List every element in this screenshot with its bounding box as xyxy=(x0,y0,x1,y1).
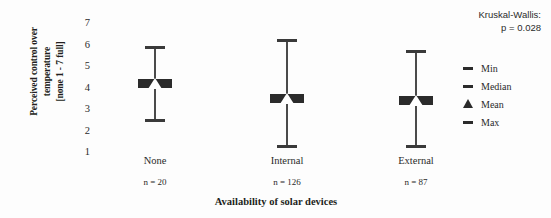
dash-marker-icon xyxy=(462,61,478,75)
max-marker xyxy=(406,50,426,53)
max-marker xyxy=(277,39,297,42)
legend-item-mean: Mean xyxy=(462,95,546,113)
legend-item-max: Max xyxy=(462,113,546,131)
category-label: External xyxy=(371,155,461,166)
y-tick-label: 5 xyxy=(76,61,90,71)
legend-label: Max xyxy=(478,117,499,128)
y-tick-label: 7 xyxy=(76,18,90,28)
y-axis-title-line-2: temperature xyxy=(41,2,54,142)
mean-marker xyxy=(148,78,162,89)
legend-item-median: Median xyxy=(462,77,546,95)
y-tick-label: 2 xyxy=(76,126,90,136)
statistical-test-annotation: Kruskal-Wallis: p = 0.028 xyxy=(391,8,541,34)
y-axis-title-line-1: Perceived control over xyxy=(28,2,41,142)
data-group-internal xyxy=(242,12,332,160)
p-value: p = 0.028 xyxy=(391,21,541,34)
plot-area xyxy=(96,12,456,160)
legend-label: Min xyxy=(478,63,498,74)
data-group-external xyxy=(371,12,461,160)
y-axis-title-container: Perceived control over temperature [none… xyxy=(10,0,76,160)
min-marker xyxy=(277,145,297,148)
y-axis-title-line-3: [none 1 - 7 full] xyxy=(54,2,67,142)
min-marker xyxy=(406,145,426,148)
category-sample-size: n = 20 xyxy=(110,177,200,187)
min-marker xyxy=(145,119,165,122)
chart-figure: Perceived control over temperature [none… xyxy=(0,0,551,218)
y-tick-label: 1 xyxy=(76,147,90,157)
category-sample-size: n = 126 xyxy=(242,177,332,187)
y-tick-label: 6 xyxy=(76,40,90,50)
category-label: None xyxy=(110,155,200,166)
legend-label: Median xyxy=(478,81,512,92)
mean-marker xyxy=(280,93,294,104)
category-sample-size: n = 87 xyxy=(371,177,461,187)
y-tick-label: 3 xyxy=(76,104,90,114)
legend-label: Mean xyxy=(478,99,504,110)
legend-item-min: Min xyxy=(462,59,546,77)
y-tick-label: 4 xyxy=(76,83,90,93)
x-axis-title: Availability of solar devices xyxy=(96,196,456,207)
triangle-marker-icon xyxy=(462,97,478,111)
chart-legend: Min Median Mean Max xyxy=(462,59,546,131)
mean-marker xyxy=(409,95,423,106)
category-label: Internal xyxy=(242,155,332,166)
y-axis-title: Perceived control over temperature [none… xyxy=(28,2,67,142)
max-marker xyxy=(145,46,165,49)
test-name: Kruskal-Wallis: xyxy=(391,8,541,21)
dash-marker-icon xyxy=(462,79,478,93)
data-group-none xyxy=(110,12,200,160)
dash-marker-icon xyxy=(462,115,478,129)
